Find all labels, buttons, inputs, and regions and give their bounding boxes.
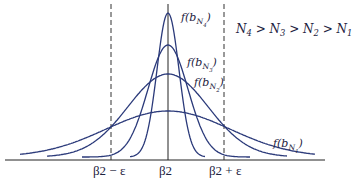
tick-beta2-plus-epsilon: β2 + ε: [209, 163, 241, 179]
label-f-b-n4: f(bN4): [181, 11, 211, 28]
label-f-b-n3: f(bN3): [187, 56, 217, 73]
curve-n2: [47, 74, 287, 156]
tick-beta2-minus-epsilon: β2 − ε: [93, 163, 125, 179]
label-f-b-n1: f(bN1): [273, 137, 303, 154]
sample-size-relation: N4 > N3 > N2 > N1: [236, 22, 352, 38]
curve-n3: [82, 45, 250, 157]
label-f-b-n2: f(bN2): [194, 76, 224, 93]
tick-beta2: β2: [159, 163, 172, 179]
